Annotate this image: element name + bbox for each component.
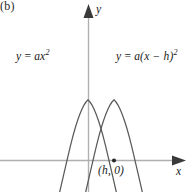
y-axis-label: y [96,4,101,16]
curve-label-left-equals: = [21,50,34,62]
vertex-point-label: (h, 0) [98,165,124,177]
curve-y-equals-a-x-minus-h-squared [79,100,149,192]
x-axis-arrowhead [172,156,186,166]
parabola-plot [0,0,191,192]
curve-label-right-base: a(x − h) [134,50,173,62]
curve-label-a-x-minus-h-squared: y = a(x − h)2 [116,49,178,62]
curve-label-right-equals: = [121,50,134,62]
curve-label-left-base: ax [34,50,45,62]
y-axis-arrowhead [84,4,94,18]
figure-container: (b) y x y = ax2 y = a(x − h)2 (h, 0) [0,0,191,192]
x-axis-label: x [176,166,181,178]
curve-label-left-exponent: 2 [45,48,49,57]
vertex-point-marker [112,158,116,162]
curve-label-ax-squared: y = ax2 [16,49,50,62]
panel-label: (b) [0,0,15,12]
curve-label-right-exponent: 2 [174,48,178,57]
